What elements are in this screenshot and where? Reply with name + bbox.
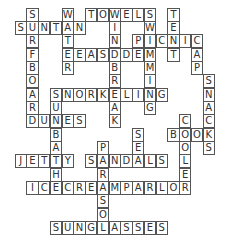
crossword-cell[interactable]: A (132, 154, 144, 168)
crossword-cell[interactable]: S (156, 154, 168, 168)
crossword-cell[interactable]: O (167, 181, 179, 195)
crossword-cell[interactable]: Y (62, 154, 74, 168)
crossword-cell[interactable]: L (120, 88, 132, 102)
crossword-cell[interactable]: F (26, 48, 38, 62)
crossword-cell[interactable]: I (144, 34, 156, 48)
crossword-cell[interactable]: N (62, 88, 74, 102)
crossword-cell[interactable]: I (26, 181, 38, 195)
crossword-cell[interactable]: T (167, 8, 179, 22)
crossword-cell[interactable]: M (109, 181, 121, 195)
crossword-cell[interactable]: T (50, 21, 62, 35)
crossword-cell[interactable]: B (167, 128, 179, 142)
crossword-cell[interactable]: P (97, 141, 109, 155)
crossword-cell[interactable]: S (203, 141, 215, 155)
crossword-cell[interactable]: R (144, 181, 156, 195)
crossword-cell[interactable]: E (132, 48, 144, 62)
crossword-cell[interactable]: R (26, 101, 38, 115)
crossword-cell[interactable]: A (109, 101, 121, 115)
crossword-cell[interactable]: L (144, 154, 156, 168)
crossword-cell[interactable]: A (50, 141, 62, 155)
crossword-cell[interactable]: A (62, 21, 74, 35)
crossword-cell[interactable]: N (73, 21, 85, 35)
crossword-cell[interactable]: E (167, 21, 179, 35)
crossword-cell[interactable]: L (156, 181, 168, 195)
crossword-cell[interactable]: W (109, 8, 121, 22)
crossword-cell[interactable]: U (50, 101, 62, 115)
crossword-cell[interactable]: O (97, 8, 109, 22)
crossword-cell[interactable]: D (120, 48, 132, 62)
crossword-cell[interactable]: A (97, 154, 109, 168)
crossword-cell[interactable]: S (144, 8, 156, 22)
crossword-cell[interactable]: U (62, 221, 74, 235)
crossword-cell[interactable]: R (97, 168, 109, 182)
crossword-cell[interactable]: G (156, 88, 168, 102)
crossword-cell[interactable]: R (179, 181, 191, 195)
crossword-cell[interactable]: W (62, 8, 74, 22)
crossword-cell[interactable]: S (156, 221, 168, 235)
crossword-cell[interactable]: R (109, 74, 121, 88)
crossword-cell[interactable]: S (97, 48, 109, 62)
crossword-cell[interactable]: R (26, 34, 38, 48)
crossword-cell[interactable]: S (120, 221, 132, 235)
crossword-cell[interactable]: P (191, 61, 203, 75)
crossword-cell[interactable]: A (26, 88, 38, 102)
crossword-cell[interactable]: L (132, 8, 144, 22)
crossword-cell[interactable]: S (50, 221, 62, 235)
crossword-cell[interactable]: C (203, 114, 215, 128)
crossword-cell[interactable]: D (109, 48, 121, 62)
crossword-cell[interactable]: O (26, 74, 38, 88)
crossword-cell[interactable]: D (120, 154, 132, 168)
crossword-cell[interactable]: A (109, 221, 121, 235)
crossword-cell[interactable]: H (50, 168, 62, 182)
crossword-cell[interactable]: R (85, 88, 97, 102)
crossword-cell[interactable]: A (191, 48, 203, 62)
crossword-cell[interactable]: K (109, 114, 121, 128)
crossword-cell[interactable]: S (50, 88, 62, 102)
crossword-cell[interactable]: U (26, 21, 38, 35)
crossword-cell[interactable]: I (144, 74, 156, 88)
crossword-cell[interactable]: E (26, 154, 38, 168)
crossword-cell[interactable]: E (179, 168, 191, 182)
crossword-cell[interactable]: I (132, 88, 144, 102)
crossword-cell[interactable]: I (109, 21, 121, 35)
crossword-cell[interactable]: S (73, 114, 85, 128)
crossword-cell[interactable]: G (85, 221, 97, 235)
crossword-cell[interactable]: L (179, 154, 191, 168)
crossword-cell[interactable]: S (26, 8, 38, 22)
crossword-cell[interactable]: C (179, 114, 191, 128)
crossword-cell[interactable]: N (109, 154, 121, 168)
crossword-cell[interactable]: M (144, 61, 156, 75)
crossword-cell[interactable]: T (50, 154, 62, 168)
crossword-cell[interactable]: S (203, 74, 215, 88)
crossword-cell[interactable]: E (120, 8, 132, 22)
crossword-cell[interactable]: S (132, 128, 144, 142)
crossword-cell[interactable]: O (73, 88, 85, 102)
crossword-cell[interactable]: N (109, 34, 121, 48)
crossword-cell[interactable]: T (85, 8, 97, 22)
crossword-cell[interactable]: B (109, 61, 121, 75)
crossword-cell[interactable]: N (50, 114, 62, 128)
crossword-cell[interactable]: A (85, 48, 97, 62)
crossword-cell[interactable]: C (38, 181, 50, 195)
crossword-cell[interactable]: C (62, 181, 74, 195)
crossword-cell[interactable]: T (38, 154, 50, 168)
crossword-cell[interactable]: E (85, 181, 97, 195)
crossword-cell[interactable]: E (109, 88, 121, 102)
crossword-cell[interactable]: A (203, 101, 215, 115)
crossword-cell[interactable]: R (73, 181, 85, 195)
crossword-cell[interactable]: N (167, 34, 179, 48)
crossword-cell[interactable]: K (203, 128, 215, 142)
crossword-cell[interactable]: O (179, 141, 191, 155)
crossword-cell[interactable]: D (26, 114, 38, 128)
crossword-cell[interactable]: E (132, 141, 144, 155)
crossword-cell[interactable]: B (50, 128, 62, 142)
crossword-cell[interactable]: R (62, 61, 74, 75)
crossword-cell[interactable]: E (144, 221, 156, 235)
crossword-cell[interactable]: S (85, 154, 97, 168)
crossword-cell[interactable]: C (156, 34, 168, 48)
crossword-cell[interactable]: O (191, 128, 203, 142)
crossword-cell[interactable]: N (38, 21, 50, 35)
crossword-cell[interactable]: L (97, 221, 109, 235)
crossword-cell[interactable]: U (38, 114, 50, 128)
crossword-cell[interactable]: O (97, 208, 109, 222)
